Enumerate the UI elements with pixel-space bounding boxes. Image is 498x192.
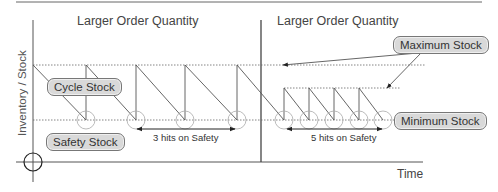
y-axis-label: Inventory / Stock: [16, 50, 28, 136]
max-stock-arrow-right: [387, 53, 421, 88]
inventory-sawtooth-diagram: [0, 0, 498, 192]
x-axis-label: Time: [397, 167, 423, 181]
right-hits-annotation: 5 hits on Safety: [311, 132, 376, 143]
maximum-stock-label: Maximum Stock: [393, 36, 489, 54]
right-sawtooth: [284, 88, 383, 120]
max-stock-arrow-left: [283, 53, 418, 65]
left-hits-annotation: 3 hits on Safety: [153, 132, 218, 143]
safety-stock-label: Safety Stock: [46, 133, 125, 151]
right-heading: Larger Order Quantity: [277, 14, 399, 28]
minimum-stock-label: Minimum Stock: [394, 112, 487, 130]
cycle-stock-label: Cycle Stock: [47, 78, 122, 96]
left-heading: Larger Order Quantity: [77, 14, 199, 28]
